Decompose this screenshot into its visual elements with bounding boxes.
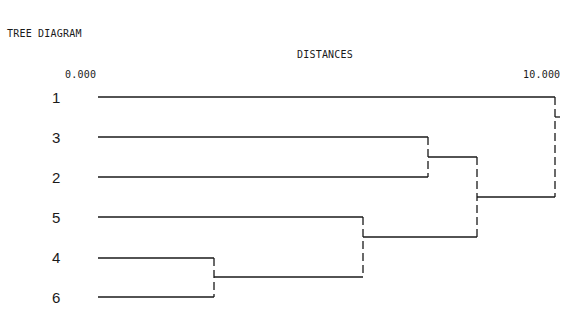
dendrogram-plot bbox=[0, 0, 586, 325]
